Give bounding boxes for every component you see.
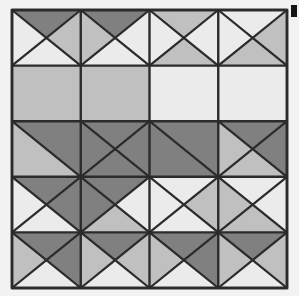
pattern-canvas (0, 0, 299, 296)
triangle-tiling-figure (0, 0, 299, 296)
top-right-black-swatch (291, 5, 297, 17)
tile-r1-c1-fill (81, 66, 150, 122)
tile-r1-c2-fill (150, 66, 219, 122)
tile-r1-c0-fill (12, 66, 81, 122)
tile-r1-c3-fill (218, 66, 287, 122)
